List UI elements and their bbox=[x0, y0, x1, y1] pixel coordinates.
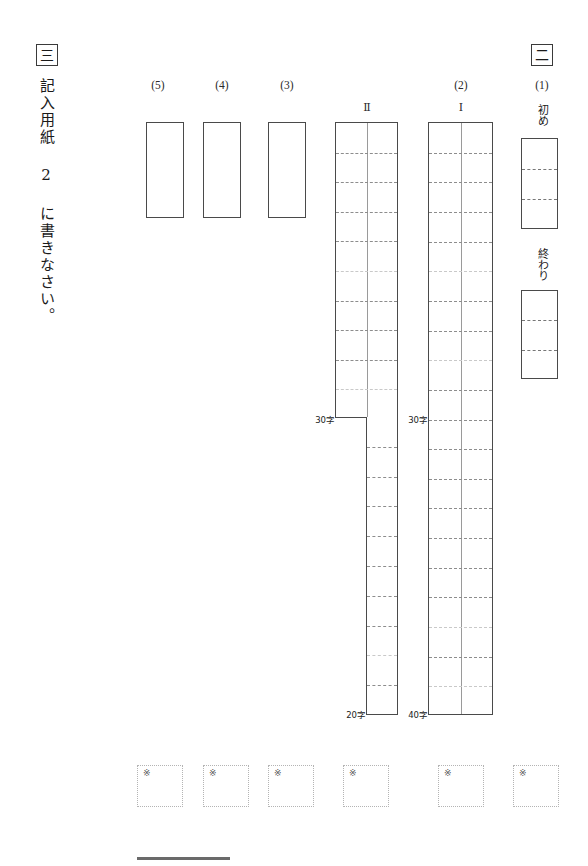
manuscript-grid-one[interactable] bbox=[428, 122, 493, 715]
grid-row-line bbox=[429, 538, 492, 539]
section-badge-three: 三 bbox=[36, 44, 58, 66]
grid-row-line bbox=[336, 182, 397, 183]
char-marker-20: 20字 bbox=[344, 708, 366, 720]
grid-row-line bbox=[336, 360, 397, 361]
grid-row-line bbox=[367, 596, 397, 597]
grid-row-line bbox=[429, 390, 492, 391]
score-box[interactable]: ※ bbox=[438, 765, 484, 807]
bottom-rule bbox=[137, 857, 230, 860]
grid-row-line bbox=[367, 477, 397, 478]
grid-row-line bbox=[429, 242, 492, 243]
grid-row-line bbox=[429, 449, 492, 450]
grid-column-divider bbox=[367, 123, 368, 417]
answer-box-1-hajime[interactable] bbox=[521, 138, 558, 229]
grid-row-line bbox=[367, 655, 397, 656]
grid-row-line bbox=[367, 506, 397, 507]
label-owari: 終わり bbox=[534, 248, 550, 281]
score-box[interactable]: ※ bbox=[268, 765, 314, 807]
char-marker-30-right: 30字 bbox=[406, 413, 428, 425]
grid-row-line bbox=[429, 182, 492, 183]
answer-sheet: 三 記入用紙 2 に書きなさい。 二 (1) 初め 終わり (2) Ⅰ Ⅱ bbox=[0, 0, 588, 866]
kome-icon: ※ bbox=[209, 768, 217, 779]
answer-box-5[interactable] bbox=[146, 122, 184, 218]
grid-row-line bbox=[429, 657, 492, 658]
char-marker-40: 40字 bbox=[406, 708, 428, 720]
label-hajime: 初め bbox=[534, 104, 550, 126]
cell-divider bbox=[522, 320, 557, 321]
grid-row-line bbox=[336, 153, 397, 154]
grid-row-line bbox=[367, 566, 397, 567]
cell-divider bbox=[522, 350, 557, 351]
item-label-1: (1) bbox=[521, 79, 563, 91]
grid-row-line bbox=[367, 447, 397, 448]
grid-row-line bbox=[367, 685, 397, 686]
kome-icon: ※ bbox=[444, 768, 452, 779]
item-label-2: (2) bbox=[440, 79, 482, 91]
grid-label-roman-two: Ⅱ bbox=[356, 101, 378, 114]
section-three-instruction: 記入用紙 2 に書きなさい。 bbox=[36, 78, 57, 325]
grid-row-line bbox=[367, 626, 397, 627]
manuscript-grid-two-lower[interactable] bbox=[366, 417, 398, 715]
kome-icon: ※ bbox=[519, 768, 527, 779]
grid-row-line bbox=[336, 301, 397, 302]
answer-box-4[interactable] bbox=[203, 122, 241, 218]
score-box[interactable]: ※ bbox=[137, 765, 183, 807]
grid-row-line bbox=[429, 686, 492, 687]
grid-row-line bbox=[429, 568, 492, 569]
cell-divider bbox=[522, 199, 557, 200]
item-label-5: (5) bbox=[137, 79, 179, 91]
grid-row-line bbox=[429, 597, 492, 598]
answer-box-1-owari[interactable] bbox=[521, 290, 558, 379]
kome-icon: ※ bbox=[143, 768, 151, 779]
grid-row-line bbox=[429, 212, 492, 213]
grid-row-line bbox=[429, 153, 492, 154]
char-marker-30-left: 30字 bbox=[313, 413, 335, 425]
kome-icon: ※ bbox=[349, 768, 357, 779]
grid-row-line bbox=[429, 420, 492, 421]
grid-label-roman-one: Ⅰ bbox=[450, 101, 472, 114]
grid-row-line bbox=[367, 536, 397, 537]
grid-row-line bbox=[429, 508, 492, 509]
item-label-4: (4) bbox=[201, 79, 243, 91]
score-box[interactable]: ※ bbox=[513, 765, 559, 807]
kome-icon: ※ bbox=[274, 768, 282, 779]
score-box[interactable]: ※ bbox=[343, 765, 389, 807]
item-label-3: (3) bbox=[266, 79, 308, 91]
grid-row-line bbox=[429, 627, 492, 628]
grid-row-line bbox=[336, 212, 397, 213]
grid-row-line bbox=[429, 301, 492, 302]
grid-row-line bbox=[336, 330, 397, 331]
grid-row-line bbox=[336, 271, 397, 272]
grid-row-line bbox=[429, 331, 492, 332]
grid-row-line bbox=[336, 389, 397, 390]
grid-row-line bbox=[429, 360, 492, 361]
grid-row-line bbox=[429, 479, 492, 480]
grid-row-line bbox=[429, 271, 492, 272]
manuscript-grid-two-upper[interactable] bbox=[335, 122, 398, 418]
grid-row-line bbox=[336, 241, 397, 242]
section-badge-two: 二 bbox=[531, 44, 553, 66]
score-box[interactable]: ※ bbox=[203, 765, 249, 807]
answer-box-3[interactable] bbox=[268, 122, 306, 218]
cell-divider bbox=[522, 169, 557, 170]
